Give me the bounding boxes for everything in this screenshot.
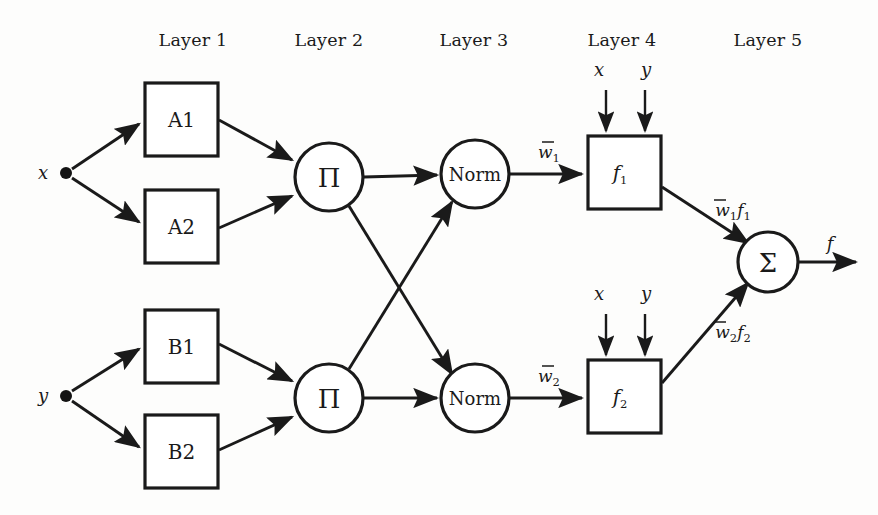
input-dot-x	[60, 167, 72, 179]
product-label-w1f1-sub: 1	[730, 209, 737, 223]
node-norm-1[interactable]: Norm	[441, 140, 509, 208]
input-label-x: x	[38, 162, 48, 183]
node-product-1[interactable]: Π	[295, 143, 363, 211]
f2-input-label-y: y	[640, 283, 652, 304]
node-A2[interactable]: A2	[145, 190, 218, 263]
layer-header-2: Layer 2	[295, 30, 364, 50]
node-norm-2-label: Norm	[449, 388, 501, 409]
node-A2-label: A2	[167, 215, 195, 239]
node-f1-sub: 1	[620, 173, 627, 187]
f1-input-label-x: x	[594, 59, 604, 80]
product-label-w1f1-base: w	[715, 200, 730, 220]
node-B2[interactable]: B2	[145, 415, 218, 488]
node-product-2-label: Π	[318, 384, 341, 414]
node-B1-label: B1	[168, 335, 195, 359]
node-A1[interactable]: A1	[145, 83, 218, 156]
product-label-w2f2-base: w	[715, 322, 730, 342]
node-B2-label: B2	[168, 440, 195, 464]
input-dot-y	[60, 390, 72, 402]
edge-prod1-to-norm1	[364, 175, 437, 177]
product-label-w1f1-sub2: 1	[743, 209, 750, 223]
f2-input-label-x: x	[594, 283, 604, 304]
node-norm-1-label: Norm	[449, 164, 501, 185]
f1-input-label-y: y	[640, 59, 652, 80]
anfis-diagram: Layer 1 Layer 2 Layer 3 Layer 4 Layer 5	[0, 0, 878, 515]
weight-label-w2-base: w	[538, 366, 553, 386]
node-norm-2[interactable]: Norm	[441, 364, 509, 432]
node-product-2[interactable]: Π	[295, 364, 363, 432]
node-B1[interactable]: B1	[145, 310, 218, 383]
layer-header-3: Layer 3	[440, 30, 509, 50]
weight-label-w1-sub: 1	[553, 151, 560, 165]
node-product-1-label: Π	[318, 163, 341, 193]
node-sum-label: Σ	[759, 248, 777, 278]
product-label-w2f2-sub: 2	[730, 331, 737, 345]
layer-header-1: Layer 1	[159, 30, 228, 50]
layer-header-4: Layer 4	[588, 30, 657, 50]
node-A1-label: A1	[167, 108, 195, 132]
weight-label-w2-sub: 2	[553, 375, 560, 389]
weight-label-w1-base: w	[538, 142, 553, 162]
input-label-y: y	[37, 385, 49, 406]
product-label-w2f2-sub2: 2	[743, 331, 750, 345]
anfis-architecture-svg: Layer 1 Layer 2 Layer 3 Layer 4 Layer 5	[0, 0, 878, 515]
layer-header-5: Layer 5	[734, 30, 803, 50]
node-f2-sub: 2	[620, 397, 627, 411]
